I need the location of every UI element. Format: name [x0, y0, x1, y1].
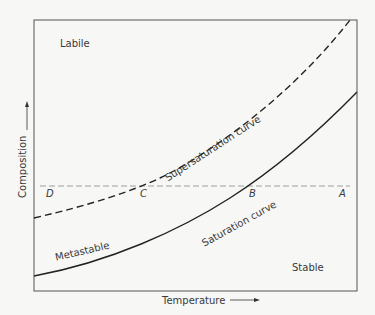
point-b: B	[249, 188, 256, 199]
point-a: A	[339, 188, 346, 199]
point-d: D	[46, 188, 54, 199]
x-axis-label: Temperature	[162, 295, 225, 306]
region-labile: Labile	[60, 38, 90, 49]
region-stable: Stable	[292, 262, 324, 273]
point-c: C	[140, 188, 147, 199]
y-axis-label: Composition	[17, 136, 28, 198]
x-arrow-head	[254, 298, 260, 302]
supersaturation-curve	[34, 20, 350, 218]
y-arrow-head	[25, 101, 29, 107]
